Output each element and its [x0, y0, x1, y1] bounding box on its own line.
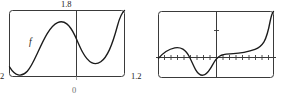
plot-left-svg	[0, 0, 145, 97]
window-xmin-label-left: 2	[0, 72, 4, 81]
viewing-rectangle-left	[10, 11, 125, 77]
window-origin-label-left: 0	[72, 86, 76, 95]
window-xmax-label-left: 1.2	[131, 72, 141, 81]
curve-label-f: f	[29, 38, 32, 48]
figure-two-graphing-windows: 1.8 2 1.2 0 f	[0, 0, 290, 97]
window-ymax-label-left: 1.8	[61, 0, 71, 9]
plot-right-svg	[145, 0, 290, 97]
graph-panel-left: 1.8 2 1.2 0 f	[0, 0, 145, 97]
graph-panel-right: 15 −2 1.2 −6 f″	[145, 0, 290, 97]
